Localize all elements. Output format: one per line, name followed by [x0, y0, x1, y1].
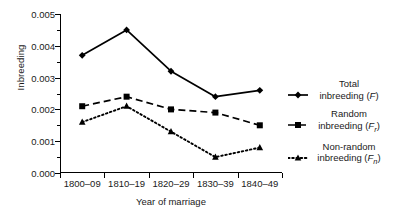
y-axis-tick-mark	[55, 109, 60, 110]
data-point-marker	[257, 122, 263, 128]
x-axis-tick-label: 1840–49	[241, 178, 278, 189]
y-axis-minor-tick-mark	[57, 30, 60, 31]
legend-label-line2: inbreeding (F)	[310, 90, 388, 102]
legend-label-suffix: )	[377, 120, 380, 131]
y-axis-tick-mark	[55, 46, 60, 47]
legend-label-prefix: inbreeding (	[317, 152, 367, 163]
legend-item: Randominbreeding (Fr)	[288, 108, 393, 135]
y-axis-tick-label: 0.002	[17, 104, 55, 115]
x-axis-tick-label: 1820–29	[153, 178, 190, 189]
data-point-marker	[256, 144, 263, 150]
x-axis-tick-label: 1800–09	[64, 178, 101, 189]
legend-label-prefix: inbreeding (	[318, 120, 368, 131]
legend-item: Non-randominbreeding (Fn)	[288, 141, 393, 168]
series-2	[79, 94, 263, 129]
data-point-marker	[79, 103, 85, 109]
legend-label-suffix: )	[375, 90, 378, 101]
legend-marker-square-icon	[288, 116, 308, 126]
legend-label-line1: Total	[310, 78, 388, 90]
legend-label-suffix: )	[377, 152, 380, 163]
legend-label-prefix: inbreeding (	[319, 90, 369, 101]
inbreeding-line-chart: Inbreeding 0.0000.0010.0020.0030.0040.00…	[0, 0, 393, 219]
data-series-layer	[60, 14, 282, 173]
data-point-marker	[123, 103, 130, 109]
y-axis-minor-tick-mark	[57, 157, 60, 158]
x-axis-tick-label: 1810–19	[108, 178, 145, 189]
y-axis-minor-tick-mark	[57, 125, 60, 126]
data-point-marker	[168, 106, 174, 112]
x-axis-tick-mark	[282, 173, 283, 178]
plot-area	[60, 14, 282, 173]
y-axis-tick-label: 0.003	[17, 72, 55, 83]
legend-label-line1: Random	[310, 108, 388, 120]
data-point-marker	[256, 87, 263, 94]
y-axis-tick-mark	[55, 14, 60, 15]
y-axis-tick-label: 0.000	[17, 168, 55, 179]
series-1	[79, 27, 263, 101]
legend-marker-triangle-icon	[288, 149, 308, 159]
data-point-marker	[212, 93, 219, 100]
legend-item: Totalinbreeding (F)	[288, 78, 393, 102]
legend-label-line1: Non-random	[310, 141, 388, 153]
y-axis-tick-mark	[55, 141, 60, 142]
y-axis-minor-tick-mark	[57, 62, 60, 63]
legend-marker-diamond-icon	[288, 86, 308, 96]
series-line	[82, 30, 260, 97]
legend-label-line2: inbreeding (Fr)	[310, 120, 388, 135]
x-axis-tick-labels: 1800–091810–191820–291830–391840–49	[60, 178, 282, 192]
legend-label-line2: inbreeding (Fn)	[310, 152, 388, 167]
y-axis-tick-label: 0.005	[17, 9, 55, 20]
data-point-marker	[212, 110, 218, 116]
y-axis-tick-label: 0.004	[17, 40, 55, 51]
y-axis-tick-label: 0.001	[17, 136, 55, 147]
y-axis-tick-mark	[55, 78, 60, 79]
y-axis-tick-labels: 0.0000.0010.0020.0030.0040.005	[17, 14, 55, 173]
legend-label: Non-randominbreeding (Fn)	[310, 141, 388, 168]
y-axis-minor-tick-mark	[57, 94, 60, 95]
legend-label: Totalinbreeding (F)	[310, 78, 388, 101]
x-axis-tick-label: 1830–39	[197, 178, 234, 189]
data-point-marker	[79, 52, 86, 59]
data-point-marker	[124, 94, 130, 100]
legend: Totalinbreeding (F)Randominbreeding (Fr)…	[288, 78, 393, 174]
x-axis-title: Year of marriage	[60, 196, 282, 207]
legend-label: Randominbreeding (Fr)	[310, 108, 388, 135]
